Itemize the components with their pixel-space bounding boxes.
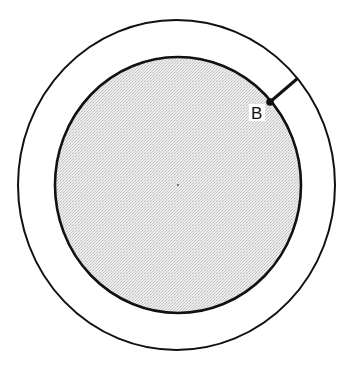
point-b-label: B bbox=[251, 104, 262, 123]
point-b-marker bbox=[266, 98, 274, 106]
diagram-canvas: B bbox=[0, 0, 354, 375]
center-point bbox=[177, 184, 179, 186]
